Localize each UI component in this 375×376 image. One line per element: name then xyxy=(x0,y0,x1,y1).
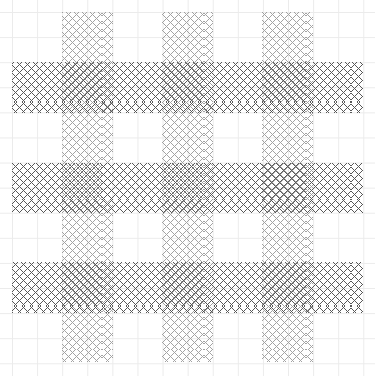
horizontal-hatched-band xyxy=(12,62,363,113)
hatched-bands-layer xyxy=(0,0,375,376)
horizontal-hatched-band xyxy=(12,163,363,213)
horizontal-hatched-band xyxy=(12,262,363,313)
figure-canvas xyxy=(0,0,375,376)
